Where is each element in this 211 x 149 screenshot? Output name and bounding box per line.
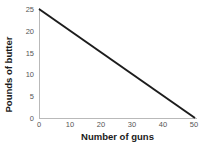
x-tick-label-20: 20 (91, 120, 111, 129)
chart-figure: Pounds of butter 25 20 15 10 5 0 0 10 20… (0, 0, 211, 149)
x-tick-label-0: 0 (29, 120, 49, 129)
x-tick-label-30: 30 (122, 120, 142, 129)
x-tick-label-10: 10 (60, 120, 80, 129)
x-tick-label-40: 40 (153, 120, 173, 129)
x-tick-label-50: 50 (184, 120, 204, 129)
x-axis-title: Number of guns (39, 131, 196, 142)
series-line-0 (39, 9, 195, 118)
